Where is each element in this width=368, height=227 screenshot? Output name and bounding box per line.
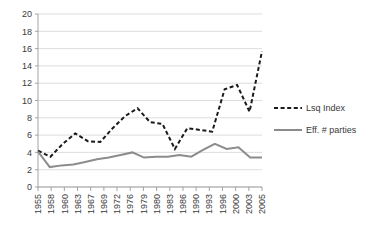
legend-label-2: Eff. # parties: [306, 125, 357, 135]
y-axis-tick-labels: 02468101214161820: [22, 9, 32, 192]
x-tick-label: 1972: [112, 194, 122, 214]
x-tick-label: 1986: [178, 194, 188, 214]
y-tick-label: 8: [27, 113, 32, 123]
x-tick-label: 1958: [46, 194, 56, 214]
x-axis-tick-labels: 1955195819601963196719691972197619791980…: [33, 194, 267, 214]
x-tick-label: 1996: [218, 194, 228, 214]
series-line-eff-parties: [38, 144, 262, 167]
legend-label-1: Lsq Index: [306, 103, 346, 113]
chart-legend: Lsq IndexEff. # parties: [274, 103, 357, 135]
x-tick-label: 1955: [33, 194, 43, 214]
y-tick-label: 4: [27, 148, 32, 158]
x-tick-label: 2000: [231, 194, 241, 214]
gridlines: [38, 14, 262, 187]
x-tick-label: 2003: [244, 194, 254, 214]
x-tick-label: 1980: [152, 194, 162, 214]
x-tick-label: 1976: [125, 194, 135, 214]
x-tick-label: 1967: [86, 194, 96, 214]
x-tick-label: 1979: [139, 194, 149, 214]
data-series-lines: [38, 51, 262, 167]
series-line-lsq-index: [38, 51, 262, 157]
y-tick-label: 20: [22, 9, 32, 19]
chart-svg: 02468101214161820 1955195819601963196719…: [0, 0, 368, 227]
chart-plot-area: 02468101214161820 1955195819601963196719…: [0, 0, 368, 227]
x-tick-label: 1969: [99, 194, 109, 214]
x-tick-marks: [38, 187, 262, 191]
y-tick-label: 2: [27, 165, 32, 175]
y-tick-label: 0: [27, 182, 32, 192]
x-tick-label: 1990: [191, 194, 201, 214]
y-tick-label: 6: [27, 130, 32, 140]
y-tick-label: 12: [22, 78, 32, 88]
x-tick-label: 1983: [165, 194, 175, 214]
chart-container: 02468101214161820 1955195819601963196719…: [0, 0, 368, 227]
y-tick-label: 18: [22, 27, 32, 37]
x-tick-label: 1960: [60, 194, 70, 214]
x-tick-label: 1993: [204, 194, 214, 214]
y-tick-label: 14: [22, 61, 32, 71]
y-tick-label: 10: [22, 96, 32, 106]
x-tick-label: 1963: [73, 194, 83, 214]
y-tick-label: 16: [22, 44, 32, 54]
x-tick-label: 2005: [257, 194, 267, 214]
